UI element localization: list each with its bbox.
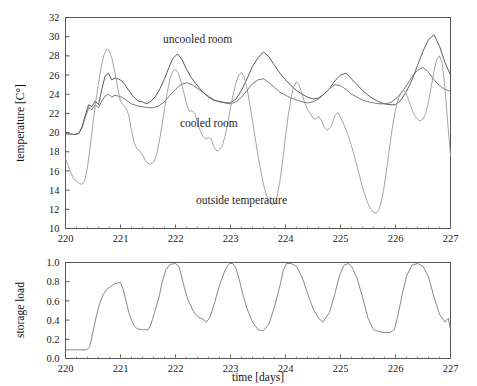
y-tick-label: 12 [49, 204, 60, 215]
chart-svg: 101214161820222426283032 220221222223224… [0, 0, 477, 386]
y-tick-label: 0.8 [46, 276, 59, 287]
y-tick-label: 16 [49, 166, 60, 177]
y-tick-label: 26 [49, 70, 60, 81]
x-axis-title: time [days] [232, 371, 284, 384]
temperature-y-axis-title: temperature [C°] [14, 84, 27, 162]
x-tick-label: 220 [58, 363, 74, 374]
x-tick-label: 223 [223, 233, 239, 244]
y-tick-label: 0.6 [46, 296, 59, 307]
x-tick-label: 222 [168, 233, 184, 244]
x-tick-label: 224 [278, 233, 295, 244]
y-tick-label: 0.4 [46, 315, 60, 326]
y-tick-label: 0.2 [46, 334, 59, 345]
y-tick-label: 20 [49, 127, 60, 138]
y-tick-label: 24 [49, 89, 60, 100]
y-tick-label: 1.0 [46, 257, 59, 268]
x-tick-label: 225 [333, 233, 349, 244]
x-tick-label: 227 [443, 233, 459, 244]
x-tick-label: 221 [113, 233, 129, 244]
x-tick-label: 225 [333, 363, 349, 374]
annotation-outside-temperature: outside temperature [196, 194, 287, 207]
annotation-cooled-room: cooled room [180, 117, 238, 129]
y-tick-label: 18 [49, 146, 60, 157]
x-tick-label: 226 [388, 233, 404, 244]
annotation-uncooled-room: uncooled room [163, 33, 232, 45]
y-tick-label: 22 [49, 108, 60, 119]
storage-y-axis-title: storage load [14, 282, 27, 338]
x-tick-label: 220 [58, 233, 74, 244]
y-tick-label: 32 [49, 12, 60, 23]
y-tick-label: 28 [49, 50, 60, 61]
y-tick-label: 14 [49, 185, 60, 196]
x-tick-label: 222 [168, 363, 184, 374]
x-tick-label: 227 [443, 363, 459, 374]
x-tick-label: 226 [388, 363, 404, 374]
x-tick-label: 221 [113, 363, 129, 374]
y-tick-label: 30 [49, 31, 60, 42]
figure-background [0, 0, 477, 386]
figure-container: 101214161820222426283032 220221222223224… [0, 0, 477, 386]
